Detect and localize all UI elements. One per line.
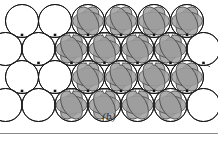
vertex-marker <box>186 90 189 93</box>
vertex-marker <box>136 62 139 65</box>
horizontal-rule <box>0 133 218 134</box>
vertex-marker <box>153 34 156 37</box>
vertex-marker <box>120 90 123 93</box>
figure-caption: (b) <box>0 110 218 122</box>
vertex-marker <box>21 34 24 37</box>
vertex-marker <box>186 34 189 37</box>
vertex-marker <box>87 34 90 37</box>
vertex-marker <box>153 90 156 93</box>
vertex-marker <box>54 90 57 93</box>
vertex-marker <box>202 62 205 65</box>
vertex-marker <box>103 62 106 65</box>
vertex-marker <box>169 62 172 65</box>
vertex-marker <box>37 62 40 65</box>
vertex-marker <box>70 62 73 65</box>
sphere-packing-diagram <box>0 0 218 122</box>
vertex-marker <box>21 90 24 93</box>
vertex-marker <box>54 34 57 37</box>
vertex-marker <box>87 90 90 93</box>
figure-panel: (b) <box>0 0 218 143</box>
vertex-marker <box>120 34 123 37</box>
